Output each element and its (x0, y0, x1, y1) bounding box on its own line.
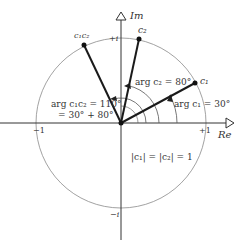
complex-plane-diagram: Im Re −1 +1 +i −i c₁ c₂ c₁c₂ arg c₂ = 80… (0, 0, 242, 246)
real-axis-label: Re (217, 129, 232, 140)
label-c1: c₁ (200, 76, 209, 86)
annotation-modulus: |c₁| = |c₂| = 1 (131, 152, 193, 163)
annotation-arg-c1c2-line1: arg c₁c₂ = 110° (51, 99, 122, 109)
label-c2: c₂ (138, 25, 147, 35)
point-c1c2 (82, 43, 87, 48)
tick-plus-one: +1 (199, 126, 211, 135)
tick-plus-i: +i (109, 34, 119, 43)
annotation-arg-c1c2-line2: = 30° + 80° (58, 110, 114, 120)
label-c1c2: c₁c₂ (74, 31, 89, 40)
origin-point (119, 121, 124, 126)
point-c2 (137, 37, 142, 42)
imag-axis-label: Im (129, 10, 143, 21)
real-axis-arrow-icon (226, 118, 234, 128)
imag-axis-arrow-icon (116, 12, 126, 20)
annotation-arg-c1: arg c₁ = 30° (174, 99, 230, 109)
point-c1 (193, 81, 198, 86)
annotation-arg-c2: arg c₂ = 80° (135, 77, 191, 87)
tick-minus-i: −i (110, 210, 120, 219)
tick-minus-one: −1 (33, 126, 45, 135)
